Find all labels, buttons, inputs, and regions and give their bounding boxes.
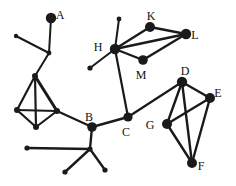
graph-node-m <box>138 55 148 65</box>
graph-edge <box>27 148 90 149</box>
graph-node-unlabeled <box>87 65 92 70</box>
graph-node-unlabeled <box>24 145 29 150</box>
graph-node-unlabeled <box>62 169 67 174</box>
graph-node-label-d: D <box>181 64 190 78</box>
graph-node-label-k: K <box>147 9 156 23</box>
graph-node-g <box>162 119 172 129</box>
graph-node-label-e: E <box>214 86 221 100</box>
graph-node-label-g: G <box>146 118 155 132</box>
graph-node-label-b: B <box>85 110 93 124</box>
graph-node-h <box>110 44 120 54</box>
graph-edge <box>17 110 57 111</box>
graph-node-label-a: A <box>56 8 65 22</box>
graph-node-unlabeled <box>32 73 38 79</box>
graph-node-unlabeled <box>87 146 92 151</box>
graph-node-unlabeled <box>54 108 60 114</box>
graph-node-d <box>177 77 187 87</box>
graph-node-a <box>46 13 56 23</box>
graph-node-unlabeled <box>14 34 18 38</box>
graph-node-k <box>145 22 155 32</box>
graph-diagram: ABCDEFGHKLM <box>0 0 236 186</box>
graph-edge <box>35 76 36 127</box>
graph-node-unlabeled <box>117 17 122 22</box>
graph-node-l <box>181 29 191 39</box>
graph-node-label-m: M <box>136 68 147 82</box>
graph-node-label-l: L <box>191 28 198 42</box>
graph-canvas: ABCDEFGHKLM <box>0 0 236 186</box>
graph-node-f <box>187 158 197 168</box>
graph-node-label-h: H <box>94 40 103 54</box>
graph-node-unlabeled <box>14 107 20 113</box>
graph-node-c <box>123 112 132 121</box>
graph-node-label-c: C <box>122 125 130 139</box>
graph-node-unlabeled <box>47 51 52 56</box>
graph-node-label-f: F <box>198 159 205 173</box>
graph-node-unlabeled <box>33 124 39 130</box>
graph-node-unlabeled <box>102 167 107 172</box>
